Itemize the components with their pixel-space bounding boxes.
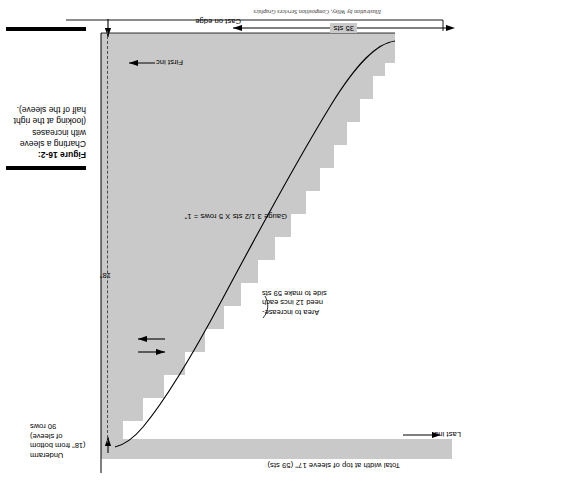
label-35-sts: 35 sts <box>330 24 357 34</box>
label-first-inc: First inc <box>156 58 183 68</box>
illustration-credit: Illustration by Wiley, Composition Servi… <box>253 9 381 15</box>
measure-dashed-line <box>107 31 108 443</box>
label-cast-on-edge: Cast on edge <box>195 17 241 27</box>
label-area-to-increase: Area to increase- need 12 incs each side… <box>262 289 378 318</box>
label-gauge: Gauge 3 1/2 sts X 5 rows = 1" <box>185 212 288 222</box>
underarm-line-3: of sleeve) <box>30 432 130 442</box>
area-line-2: need 12 incs each <box>262 298 378 308</box>
underarm-line-2: (18" from bottom <box>30 441 130 451</box>
label-underarm: Underarm (18" from bottom of sleeve) 90 … <box>30 422 130 460</box>
label-last-inc: Last inc <box>434 430 461 440</box>
area-line-3: side to make 59 sts <box>262 289 378 299</box>
label-height-18in: 18" <box>100 271 111 281</box>
underarm-line-1: Underarm <box>30 451 130 461</box>
area-line-1: Area to increase- <box>262 308 378 318</box>
caption-body: Charting a sleeve with increases (lookin… <box>14 105 86 149</box>
underarm-line-4: 90 rows <box>30 422 130 432</box>
caption-rule-bottom <box>6 27 86 31</box>
figure-canvas: Cast on edge 35 sts First inc Last inc G… <box>0 0 563 503</box>
caption-rule-top <box>6 166 86 170</box>
caption-figure-number: Figure 16-2: <box>38 150 86 160</box>
caption-text-block: Figure 16-2: Charting a sleeve with incr… <box>8 104 86 160</box>
label-total-width: Total width at top of sleeve 17" (59 sts… <box>267 461 400 471</box>
sleeve-curve <box>115 41 395 447</box>
